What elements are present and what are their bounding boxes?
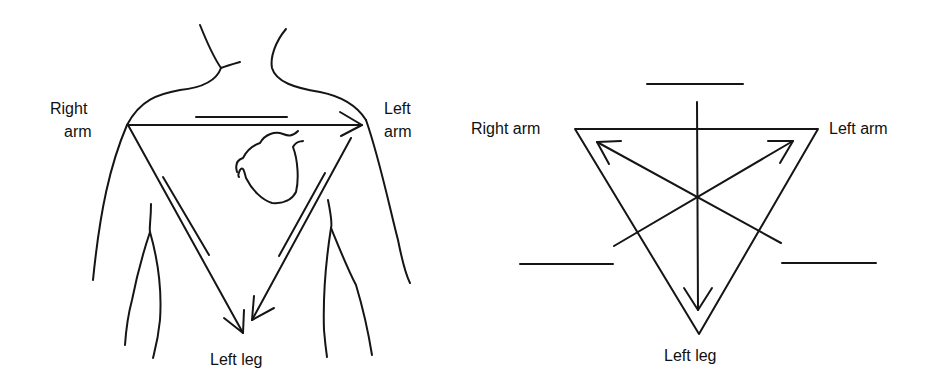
right-side-torso-line [125,204,151,345]
left-side-torso-line [324,200,332,357]
neck-left-outline [127,25,240,125]
label-right-arm-line1: Right [50,99,87,118]
heart [236,131,303,203]
lead-III-polarity-bar [279,173,325,256]
lead-II-polarity-bar [163,177,209,255]
lead-II-vector [128,125,243,333]
label-left-arm-line1: Left [384,99,411,118]
diagram-canvas [0,0,945,392]
lead-III-vector [252,138,351,320]
label-left-leg-right-panel: Left leg [664,346,716,365]
label-left-arm: Left arm [829,119,888,138]
left-inner-torso-line [331,228,372,355]
neck-right-outline [272,29,366,120]
axis-to-right-arm [597,142,781,243]
right-panel [520,84,876,334]
right-arm-outline [93,125,127,280]
label-right-arm: Right arm [471,119,540,138]
label-right-arm-line2: arm [64,122,92,141]
vertical-axis [697,102,698,310]
left-arm-outline [366,120,410,283]
right-inner-torso-line [150,232,161,358]
label-left-leg-left-panel: Left leg [210,350,262,369]
left-panel [93,25,410,358]
label-left-arm-line2: arm [384,122,412,141]
axis-to-left-arm [614,141,793,246]
